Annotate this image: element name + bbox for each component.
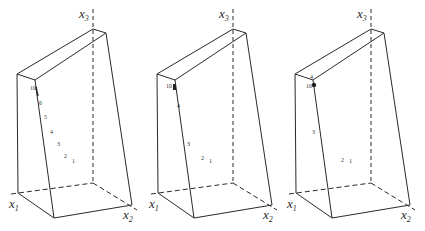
point-label: 4 <box>50 129 53 135</box>
point-cluster <box>312 83 316 87</box>
panel-3: x3 x1 x2 <box>286 6 415 224</box>
x2-label: x2 <box>122 207 133 224</box>
wedge-solid <box>17 29 132 218</box>
x3-label: x3 <box>218 6 229 23</box>
point-label: 3 <box>187 141 190 147</box>
axis-labels: x3 x1 x2 <box>148 6 273 224</box>
point-label: 2 <box>201 155 204 161</box>
x2-label: x2 <box>262 207 273 224</box>
point-label: 3 <box>312 129 315 135</box>
point-label: 1 <box>209 158 212 164</box>
point-cluster <box>173 84 176 90</box>
x3-label: x3 <box>78 6 89 23</box>
panel-2-points: 1 2 3 4 10 <box>166 83 212 164</box>
panel-3-points: 1 2 3 4 10 <box>306 74 352 164</box>
panel-2: x3 x1 x2 <box>148 6 277 224</box>
data-points: 1 2 3 4 5 6 10 <box>30 85 75 164</box>
x3-label: x3 <box>356 6 367 23</box>
point-label: 3 <box>57 141 60 147</box>
wedge-hidden <box>151 9 277 210</box>
panel-1: x3 x1 x2 1 2 3 4 5 6 10 <box>8 6 137 224</box>
point-label: 2 <box>64 153 67 159</box>
point-label: 1 <box>72 158 75 164</box>
point-label: 5 <box>44 114 47 120</box>
point-label: 4 <box>177 103 180 109</box>
point-label: 10 <box>306 83 312 89</box>
point-label: 1 <box>349 158 352 164</box>
figure-svg: x3 x1 x2 1 2 3 4 5 6 10 <box>0 0 425 231</box>
x1-label: x1 <box>148 196 159 213</box>
axis-labels: x3 x1 x2 <box>286 6 411 224</box>
x1-label: x1 <box>8 196 19 213</box>
point-label: 10 <box>166 83 172 89</box>
figure: x3 x1 x2 1 2 3 4 5 6 10 <box>0 0 425 231</box>
point-cluster <box>36 87 38 96</box>
axis-labels: x3 x1 x2 <box>8 6 133 224</box>
point-label: 4 <box>310 74 313 80</box>
point-label: 6 <box>39 100 42 106</box>
wedge-hidden <box>11 9 137 210</box>
x2-label: x2 <box>400 207 411 224</box>
wedge-hidden <box>289 9 415 210</box>
wedge-solid <box>157 29 272 218</box>
point-label: 2 <box>341 157 344 163</box>
point-label: 10 <box>30 85 36 91</box>
x1-label: x1 <box>286 196 297 213</box>
wedge-solid <box>295 29 410 218</box>
